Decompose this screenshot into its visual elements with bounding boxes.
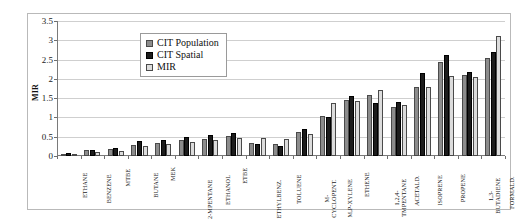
legend-item: CIT Spatial <box>146 49 219 61</box>
bar <box>237 138 242 157</box>
bar <box>255 144 260 156</box>
bar <box>72 154 77 156</box>
bar <box>161 140 166 156</box>
bar-group <box>434 21 458 156</box>
bar <box>166 144 171 156</box>
legend-item: MIR <box>146 61 219 73</box>
bar <box>113 148 118 156</box>
x-tick-mark <box>481 156 482 159</box>
x-tick-mark <box>57 156 58 159</box>
y-tick-label: 2 <box>23 74 53 83</box>
x-tick-label: BUTANE <box>152 173 159 198</box>
x-tick-label: ACETALD. <box>414 175 421 206</box>
bar <box>320 116 325 157</box>
bar-group <box>269 21 293 156</box>
bar <box>249 143 254 156</box>
bar <box>131 145 136 156</box>
bar <box>302 129 307 156</box>
bar <box>155 143 160 156</box>
bar <box>226 136 231 156</box>
bar <box>462 75 467 156</box>
bar-group <box>81 21 105 156</box>
x-tick-mark <box>364 156 365 159</box>
bar <box>355 101 360 156</box>
bar <box>308 134 313 156</box>
bar <box>444 55 449 156</box>
legend-label: MIR <box>157 62 176 72</box>
x-tick-mark <box>340 156 341 159</box>
x-tick-label: 2-MPENTANE <box>206 180 213 219</box>
x-tick-label: BENZENE <box>107 174 114 203</box>
bar <box>378 90 383 156</box>
y-tick-label: 0 <box>23 152 53 161</box>
bar <box>84 150 89 156</box>
y-tick-label: 1.5 <box>23 94 53 103</box>
bar <box>95 152 100 156</box>
bar <box>119 151 124 156</box>
x-tick-mark <box>293 156 294 159</box>
bar-group <box>104 21 128 156</box>
bar <box>491 52 496 156</box>
y-tick-label: 3.5 <box>23 17 53 26</box>
x-tick-mark <box>505 156 506 159</box>
x-tick-mark <box>198 156 199 159</box>
bar <box>296 132 301 156</box>
x-tick-mark <box>222 156 223 159</box>
bar <box>184 137 189 156</box>
bar-group <box>411 21 435 156</box>
legend-swatch-cit-population <box>146 40 153 47</box>
x-tick-label: ISOPRENE <box>438 175 445 205</box>
legend-swatch-mir <box>146 64 153 71</box>
bar <box>108 149 113 156</box>
x-tick-mark <box>458 156 459 159</box>
x-tick-mark <box>151 156 152 159</box>
bar <box>273 144 278 156</box>
chart-legend: CIT Population CIT Spatial MIR <box>140 33 227 77</box>
bar <box>349 96 354 156</box>
x-tick-mark <box>411 156 412 159</box>
x-tick-mark <box>387 156 388 159</box>
x-tick-label: 1,2,4-TMPENTANE <box>394 179 408 217</box>
bar <box>284 139 289 156</box>
x-tick-label: ETHYLBENZ. <box>277 179 284 218</box>
bar <box>402 105 407 156</box>
x-tick-label: ETHENE <box>364 172 371 197</box>
bar <box>90 150 95 156</box>
x-tick-label: 1,3-BUTADIENE <box>488 178 502 214</box>
bar <box>438 62 443 157</box>
x-tick-mark <box>434 156 435 159</box>
bar <box>485 58 490 156</box>
x-tick-label: ETBE <box>242 168 249 184</box>
bar <box>344 100 349 156</box>
bar <box>331 103 336 156</box>
y-tick-label: 1 <box>23 113 53 122</box>
bar <box>208 135 213 156</box>
bar-group <box>364 21 388 156</box>
x-tick-label: FORMALD. <box>510 176 517 209</box>
bar <box>137 141 142 156</box>
bar <box>467 72 472 156</box>
bar <box>396 102 401 156</box>
bar <box>143 146 148 156</box>
bar <box>473 77 478 156</box>
bar-chart: MIR 00.511.522.533.5 ETHANEBENZENEMTBEBU… <box>0 0 522 223</box>
x-tick-label: M-CYCLOPENT. <box>324 179 338 218</box>
y-tick-label: 3 <box>23 36 53 45</box>
bar <box>367 95 372 156</box>
bar <box>202 139 207 156</box>
bar <box>231 133 236 156</box>
legend-label: CIT Spatial <box>157 50 203 60</box>
bars-layer <box>57 21 505 156</box>
y-tick-label: 2.5 <box>23 55 53 64</box>
x-tick-label: ETHANOL <box>225 175 232 205</box>
x-tick-label: ETHANE <box>81 173 88 198</box>
bar <box>261 138 266 157</box>
legend-swatch-cit-spatial <box>146 52 153 59</box>
bar <box>190 142 195 156</box>
bar <box>66 153 71 156</box>
y-tick-label: 0.5 <box>23 132 53 141</box>
bar <box>278 146 283 156</box>
bar-group <box>316 21 340 156</box>
x-tick-label: MEK <box>170 167 177 181</box>
bar-group <box>481 21 505 156</box>
